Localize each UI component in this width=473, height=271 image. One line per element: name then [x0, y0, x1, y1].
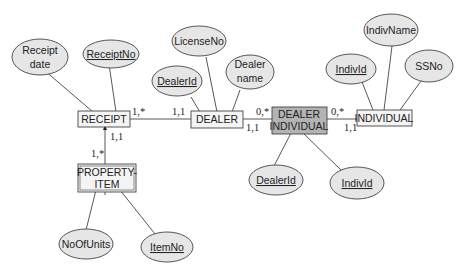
connector-receipt-date [44, 70, 93, 112]
attribute-dealer-name: Dealer name [226, 55, 274, 89]
svg-text:DEALER: DEALER [278, 108, 320, 120]
entity-property-item: PROPERTY- ITEM [77, 164, 138, 192]
svg-text:IndivName: IndivName [366, 24, 416, 36]
attribute-item-no: ItemNo [141, 232, 193, 262]
svg-text:Dealer: Dealer [235, 58, 266, 70]
svg-text:LicenseNo: LicenseNo [174, 35, 224, 47]
svg-text:IndivId: IndivId [336, 63, 367, 75]
svg-text:Receipt: Receipt [22, 44, 58, 56]
svg-text:name: name [237, 72, 263, 84]
connector-license-no [206, 57, 217, 112]
attribute-dealer-id: DealerId [152, 66, 202, 96]
svg-text:ReceiptNo: ReceiptNo [86, 48, 135, 60]
cardinality-label: 1,1 [246, 122, 259, 133]
svg-text:DealerId: DealerId [256, 174, 296, 186]
cardinality-label: 1,1 [172, 106, 185, 117]
entity-dealer: DEALER [191, 111, 243, 128]
svg-text:ITEM: ITEM [94, 178, 119, 190]
connector-indiv-name [384, 46, 392, 110]
connector-dealer-id [191, 97, 200, 112]
attribute-receipt-date: Receipt date [12, 39, 68, 75]
svg-text:DealerId: DealerId [157, 75, 197, 87]
attribute-di-dealer-id: DealerId [249, 165, 303, 195]
connector-di-dealer-id [274, 133, 291, 166]
svg-text:INDIVIDUAL: INDIVIDUAL [355, 112, 414, 124]
attribute-license-no: LicenseNo [172, 26, 226, 56]
connector-di-indiv-id [303, 133, 341, 170]
attribute-di-indiv-id: IndivId [330, 167, 384, 199]
attribute-indiv-id: IndivId [326, 54, 376, 84]
entity-dealer-individual: DEALER INDIVIDUAL [270, 107, 329, 134]
svg-text:INDIVIDUAL: INDIVIDUAL [270, 120, 329, 132]
svg-text:RECEIPT: RECEIPT [81, 113, 127, 125]
connector-no-of-units [86, 190, 96, 230]
connector-ssno [400, 81, 421, 110]
cardinality-label: 1,1 [344, 122, 357, 133]
svg-text:PROPERTY-: PROPERTY- [77, 166, 138, 178]
cardinality-label: 1,* [132, 106, 145, 117]
cardinality-label: 1,1 [110, 131, 123, 142]
attribute-indiv-name: IndivName [364, 14, 418, 46]
er-diagram: Receipt date ReceiptNo LicenseNo DealerI… [0, 0, 473, 271]
attribute-ssno: SSNo [405, 50, 453, 82]
svg-text:SSNo: SSNo [415, 60, 443, 72]
connector-dealer-name [232, 90, 240, 112]
svg-text:date: date [30, 58, 51, 70]
svg-text:IndivId: IndivId [342, 177, 373, 189]
cardinality-label: 0,* [256, 106, 269, 117]
cardinality-label: 0,* [331, 106, 344, 117]
attribute-receipt-no: ReceiptNo [83, 40, 139, 68]
svg-text:NoOfUnits: NoOfUnits [62, 238, 110, 250]
svg-text:DEALER: DEALER [196, 113, 238, 125]
svg-text:ItemNo: ItemNo [150, 241, 184, 253]
connector-receipt-no [109, 64, 116, 112]
attribute-no-of-units: NoOfUnits [59, 229, 113, 259]
entity-receipt: RECEIPT [78, 111, 130, 127]
cardinality-label: 1,* [91, 148, 104, 159]
connector-item-no [120, 190, 155, 234]
connector-indiv-id [362, 82, 373, 110]
entity-individual: INDIVIDUAL [355, 110, 414, 126]
